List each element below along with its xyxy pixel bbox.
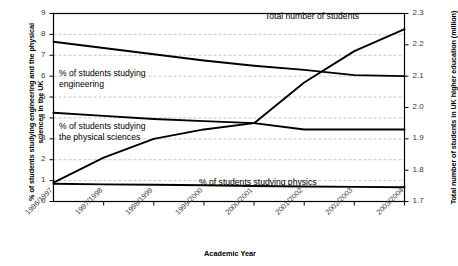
annotation-engineering: % of students studying engineering (59, 68, 145, 90)
y-axis-left-tick-label: 6 (24, 72, 46, 80)
y-axis-left-tick-label: 9 (24, 9, 46, 17)
y-axis-right-tick-label: 1.9 (413, 134, 437, 142)
plot-frame (54, 14, 405, 202)
y-axis-left-tick-label: 3 (24, 134, 46, 142)
series-lines (54, 29, 405, 187)
y-axis-left-tick-label: 4 (24, 113, 46, 121)
annotation-physics: % of students studying physics (199, 177, 317, 188)
annotation-total-students: Total number of students (265, 11, 359, 22)
y-axis-right-tick-label: 2.2 (413, 40, 437, 48)
y-axis-right-tick-label: 2.0 (413, 103, 437, 111)
y-axis-left-tick-label: 1 (24, 176, 46, 184)
y-axis-right-tick-label: 1.8 (413, 166, 437, 174)
y-axis-right-tick-label: 2.1 (413, 72, 437, 80)
y-axis-left-tick-label: 7 (24, 51, 46, 59)
annotation-physical-sciences: % of students studying the physical scie… (59, 121, 145, 143)
y-axis-left-tick-label: 8 (24, 30, 46, 38)
y-axis-left-tick-label: 2 (24, 155, 46, 163)
y-axis-left-tick-label: 5 (24, 93, 46, 101)
gridlines (54, 34, 405, 180)
y-axis-right-tick-label: 1.7 (413, 197, 437, 205)
x-axis-ticks (104, 202, 405, 206)
y-axis-right-tick-label: 2.3 (413, 9, 437, 17)
